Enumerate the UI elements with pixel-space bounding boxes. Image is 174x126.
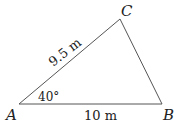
side-label-ac: 9.5 m xyxy=(46,35,85,70)
angle-label-a: 40° xyxy=(38,90,59,104)
side-label-ab: 10 m xyxy=(84,108,117,123)
vertex-label-b: B xyxy=(162,106,174,124)
triangle-diagram: A B C 10 m 9.5 m 40° xyxy=(0,0,174,126)
vertex-label-a: A xyxy=(4,106,17,124)
vertex-label-c: C xyxy=(121,2,133,20)
